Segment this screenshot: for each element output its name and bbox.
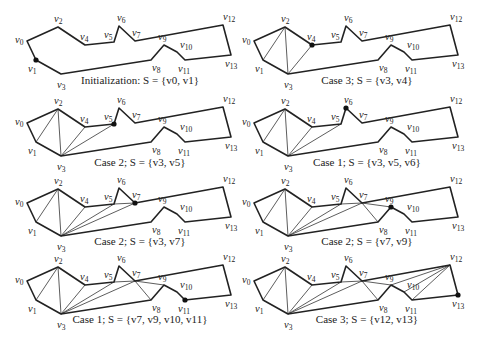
panel-case3-b: v0v1v2v3v4v5v6v7v8v9v10v11v12v13Case 3; … — [242, 251, 464, 332]
vertex-label-v6: v6 — [117, 94, 126, 107]
vertex-label-v6: v6 — [117, 174, 126, 187]
polygon-boundary — [27, 187, 231, 236]
diagonal-v7-v8 — [362, 203, 378, 222]
diagonal-v7-v8 — [362, 281, 378, 300]
polygon-boundary — [27, 265, 231, 314]
vertex-label-v13: v13 — [225, 140, 237, 153]
vertex-label-v3: v3 — [57, 79, 66, 92]
vertex-label-v12: v12 — [450, 11, 462, 24]
polygon-boundary — [254, 107, 458, 156]
vertex-label-v6: v6 — [344, 94, 353, 107]
vertex-label-v10: v10 — [407, 39, 419, 52]
diagonal-v3-v4 — [288, 207, 312, 236]
vertex-label-v9: v9 — [158, 193, 167, 206]
diagonal-v3-v4 — [61, 285, 85, 314]
vertex-label-v3: v3 — [57, 319, 66, 332]
vertex-label-v5: v5 — [331, 269, 340, 282]
vertex-label-v5: v5 — [104, 191, 113, 204]
vertex-label-v9: v9 — [385, 271, 394, 284]
triangulation-figure: v0v1v2v3v4v5v6v7v8v9v10v11v12v13Initiali… — [0, 0, 478, 342]
vertex-label-v5: v5 — [331, 111, 340, 124]
vertex-label-v5: v5 — [104, 29, 113, 42]
vertex-label-v1: v1 — [28, 145, 37, 158]
vertex-label-v1: v1 — [255, 225, 264, 238]
current-vertex-marker — [343, 105, 348, 110]
diagonal-v7-v8 — [135, 281, 151, 300]
diagonal-v2-v3 — [58, 109, 61, 156]
vertex-label-v13: v13 — [452, 220, 464, 233]
diagonal-v3-v4 — [288, 45, 312, 74]
diagonal-v5-v7 — [341, 281, 362, 282]
vertex-label-v2: v2 — [54, 95, 63, 108]
polygon-boundary — [27, 25, 231, 74]
vertex-label-v1: v1 — [255, 145, 264, 158]
vertex-label-v9: v9 — [385, 193, 394, 206]
diagonal-v3-v4 — [288, 127, 312, 156]
vertex-label-v12: v12 — [223, 251, 235, 264]
vertex-label-v13: v13 — [225, 298, 237, 311]
vertex-label-v7: v7 — [132, 27, 141, 40]
vertex-label-v6: v6 — [117, 12, 126, 25]
vertex-label-v7: v7 — [132, 267, 141, 280]
vertex-label-v2: v2 — [281, 95, 290, 108]
vertex-label-v9: v9 — [158, 113, 167, 126]
current-vertex-marker — [455, 292, 460, 297]
vertex-label-v0: v0 — [242, 196, 251, 209]
vertex-label-v10: v10 — [180, 279, 192, 292]
vertex-label-v1: v1 — [28, 303, 37, 316]
current-vertex-marker — [182, 297, 187, 302]
vertex-label-v0: v0 — [15, 196, 24, 209]
vertex-label-v7: v7 — [132, 109, 141, 122]
vertex-label-v10: v10 — [407, 279, 419, 292]
vertex-label-v2: v2 — [54, 13, 63, 26]
diagonal-v2-v3 — [58, 267, 61, 314]
panel-caption: Case 1; S = {v3, v5, v6} — [313, 156, 421, 168]
vertex-label-v10: v10 — [180, 39, 192, 52]
vertex-label-v12: v12 — [450, 251, 462, 264]
diagonal-v2-v3 — [285, 267, 288, 314]
vertex-label-v7: v7 — [359, 27, 368, 40]
diagonal-v3-v4 — [61, 207, 85, 236]
panel-case1-a: v0v1v2v3v4v5v6v7v8v9v10v11v12v13Case 1; … — [242, 93, 464, 174]
panel-case3-a: v0v1v2v3v4v5v6v7v8v9v10v11v12v13Case 3; … — [242, 11, 464, 92]
vertex-label-v0: v0 — [15, 116, 24, 129]
vertex-label-v6: v6 — [344, 174, 353, 187]
diagonal-v2-v3 — [285, 189, 288, 236]
diagonal-v2-v3 — [58, 189, 61, 236]
current-vertex-marker — [33, 57, 38, 62]
vertex-label-v0: v0 — [15, 34, 24, 47]
vertex-label-v5: v5 — [104, 269, 113, 282]
panel-caption: Case 3; S = {v3, v4} — [321, 74, 412, 86]
vertex-label-v1: v1 — [255, 63, 264, 76]
vertex-label-v2: v2 — [281, 253, 290, 266]
vertex-label-v1: v1 — [28, 63, 37, 76]
vertex-label-v7: v7 — [359, 189, 368, 202]
polygon-boundary — [254, 25, 458, 74]
vertex-label-v13: v13 — [452, 140, 464, 153]
vertex-label-v12: v12 — [223, 93, 235, 106]
vertex-label-v12: v12 — [223, 11, 235, 24]
diagonal-v3-v4 — [61, 127, 85, 156]
vertex-label-v7: v7 — [132, 189, 141, 202]
panel-caption: Case 2; S = {v7, v9} — [321, 235, 412, 247]
diagonal-v5-v7 — [341, 203, 362, 204]
vertex-label-v1: v1 — [255, 303, 264, 316]
panel-case2-c: v0v1v2v3v4v5v6v7v8v9v10v11v12v13Case 2; … — [242, 173, 464, 254]
diagonal-v2-v3 — [285, 27, 288, 74]
vertex-label-v1: v1 — [28, 225, 37, 238]
vertex-label-v0: v0 — [242, 116, 251, 129]
panel-case2-b: v0v1v2v3v4v5v6v7v8v9v10v11v12v13Case 2; … — [15, 173, 237, 254]
vertex-label-v2: v2 — [54, 175, 63, 188]
vertex-label-v0: v0 — [242, 34, 251, 47]
vertex-label-v3: v3 — [284, 79, 293, 92]
panel-caption: Case 1; S = {v7, v9, v10, v11} — [73, 313, 208, 325]
vertex-label-v12: v12 — [223, 173, 235, 186]
current-vertex-marker — [388, 204, 393, 209]
vertex-label-v13: v13 — [225, 220, 237, 233]
diagonal-v2-v3 — [285, 109, 288, 156]
vertex-label-v9: v9 — [385, 31, 394, 44]
vertex-label-v9: v9 — [158, 31, 167, 44]
vertex-label-v6: v6 — [344, 12, 353, 25]
vertex-label-v5: v5 — [104, 111, 113, 124]
panel-caption: Initialization: S = {v0, v1} — [81, 74, 199, 86]
